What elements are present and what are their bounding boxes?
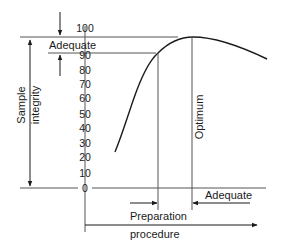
tick-100: 100 (76, 22, 94, 34)
tick-20: 20 (79, 151, 91, 163)
y-axis-label-line2: integrity (29, 85, 41, 124)
tick-10: 10 (79, 167, 91, 179)
tick-0: 0 (82, 182, 88, 194)
tick-30: 30 (79, 137, 91, 149)
integrity-diagram: 100 90 80 70 60 50 40 30 20 10 0 Adequat… (0, 0, 281, 247)
tick-70: 70 (79, 78, 91, 90)
tick-60: 60 (79, 92, 91, 104)
x-axis-label-line1: Preparation (130, 210, 187, 222)
adequate-band-label: Adequate (49, 39, 96, 51)
tick-40: 40 (79, 122, 91, 134)
optimum-label: Optimum (193, 95, 205, 140)
x-axis-label-line2: procedure (130, 228, 180, 240)
y-axis-label-line1: Sample (15, 86, 27, 123)
tick-50: 50 (79, 108, 91, 120)
tick-80: 80 (79, 64, 91, 76)
integrity-curve (115, 37, 267, 152)
right-adequate-label: Adequate (205, 189, 252, 201)
